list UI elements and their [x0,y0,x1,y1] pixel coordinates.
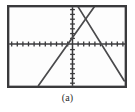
graph-plot-area [0,0,135,92]
figure-caption: (a) [0,92,135,104]
figure-container: (a) [0,0,135,112]
calculator-screen [0,0,135,92]
